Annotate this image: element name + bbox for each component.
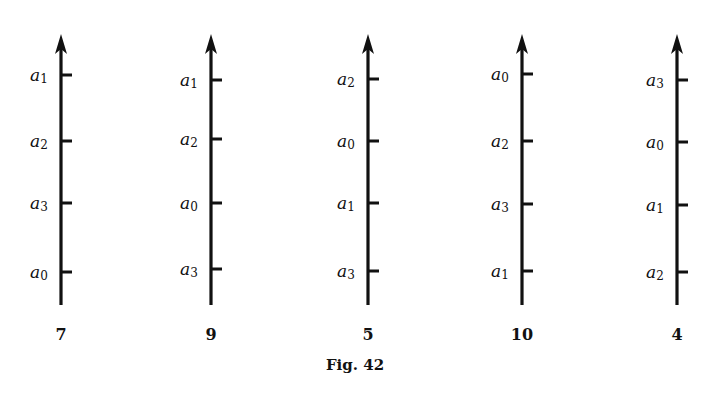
tick-label: a1 xyxy=(491,263,509,280)
tick-label: a2 xyxy=(30,133,48,150)
tick-label: a0 xyxy=(646,134,664,151)
tick-label: a3 xyxy=(30,195,48,212)
tick-label: a2 xyxy=(491,133,509,150)
tick-label: a0 xyxy=(491,66,509,83)
tick-label: a1 xyxy=(646,197,664,214)
tick-label: a3 xyxy=(337,263,355,280)
tick-label: a0 xyxy=(30,264,48,281)
axis-10 xyxy=(516,34,533,305)
figure-42: a1a2a3a07a1a2a0a39a2a0a1a35a0a2a3a110a3a… xyxy=(0,0,710,397)
figure-caption: Fig. 42 xyxy=(326,356,384,374)
tick-label: a3 xyxy=(646,72,664,89)
axis-7 xyxy=(55,34,72,305)
axes-drawing xyxy=(0,0,710,397)
tick-label: a1 xyxy=(180,72,198,89)
tick-label: a2 xyxy=(646,264,664,281)
tick-label: a1 xyxy=(337,195,355,212)
tick-label: a3 xyxy=(180,261,198,278)
axis-9 xyxy=(205,34,222,305)
axis-number: 9 xyxy=(205,327,216,343)
axis-number: 5 xyxy=(362,327,373,343)
axis-4 xyxy=(671,34,688,305)
tick-label: a0 xyxy=(180,195,198,212)
tick-label: a2 xyxy=(180,131,198,148)
tick-label: a3 xyxy=(491,196,509,213)
axis-5 xyxy=(362,34,379,305)
tick-label: a0 xyxy=(337,133,355,150)
axis-number: 4 xyxy=(671,327,682,343)
axis-number: 7 xyxy=(55,327,66,343)
tick-label: a2 xyxy=(337,71,355,88)
axis-number: 10 xyxy=(511,327,533,343)
tick-label: a1 xyxy=(30,67,48,84)
